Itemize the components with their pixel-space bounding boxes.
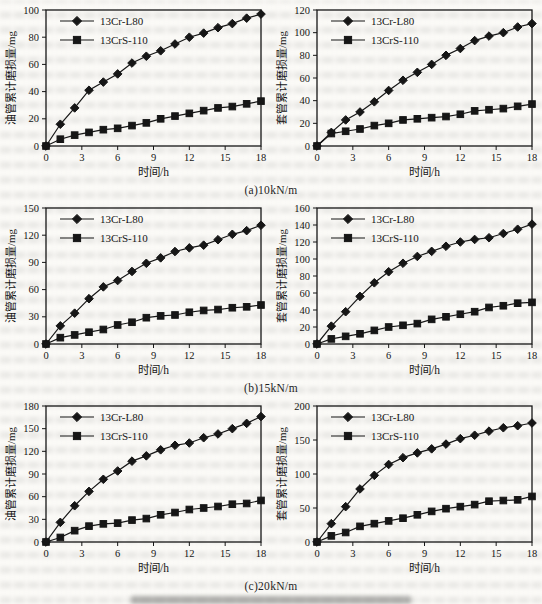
square-marker	[114, 322, 121, 329]
y-tick-label: 0	[305, 141, 310, 152]
diamond-marker	[171, 441, 180, 450]
y-tick-label: 60	[29, 284, 40, 295]
square-marker	[457, 311, 464, 318]
square-marker	[400, 117, 407, 124]
chart-row-b: 03060901201500369121518油管累计磨损量/mg时间/h13C…	[0, 198, 542, 382]
diamond-marker	[399, 453, 408, 462]
plot-border	[317, 10, 532, 146]
diamond-marker	[99, 78, 108, 87]
square-marker	[71, 527, 78, 534]
diamond-marker	[242, 226, 251, 235]
square-marker	[400, 322, 407, 329]
x-tick-label: 12	[455, 152, 466, 163]
square-marker	[443, 113, 450, 120]
legend-label: 13Cr-L80	[100, 213, 144, 225]
diamond-marker	[470, 431, 479, 440]
x-tick-label: 12	[184, 152, 195, 163]
chart-svg: 03060901201500369121518油管累计磨损量/mg时间/h13C…	[0, 198, 271, 382]
square-marker	[157, 116, 164, 123]
y-tick-label: 120	[294, 5, 310, 16]
square-marker	[143, 120, 150, 127]
square-marker	[57, 534, 64, 541]
diamond-marker	[113, 467, 122, 476]
x-tick-label: 18	[256, 350, 267, 361]
square-marker	[258, 98, 265, 105]
square-marker	[200, 307, 207, 314]
diamond-marker	[128, 267, 137, 276]
square-marker	[486, 498, 493, 505]
x-tick-label: 18	[527, 548, 538, 559]
diamond-marker	[156, 254, 165, 263]
diamond-marker	[442, 242, 451, 251]
diamond-marker	[427, 60, 436, 69]
x-tick-label: 0	[314, 350, 319, 361]
diamond-marker	[257, 221, 266, 230]
x-tick-label: 3	[79, 548, 84, 559]
square-marker	[229, 304, 236, 311]
diamond-marker	[513, 23, 522, 32]
square-marker	[342, 128, 349, 135]
x-tick-label: 15	[220, 152, 231, 163]
plot-border	[46, 208, 261, 344]
square-marker	[100, 126, 107, 133]
diamond-marker	[228, 424, 237, 433]
square-marker	[73, 432, 80, 439]
square-marker	[500, 497, 507, 504]
legend-label: 13CrS-110	[371, 430, 419, 442]
square-marker	[328, 130, 335, 137]
diamond-marker	[470, 235, 479, 244]
legend-label: 13CrS-110	[100, 430, 148, 442]
y-tick-label: 120	[294, 237, 310, 248]
x-tick-label: 3	[79, 152, 84, 163]
square-marker	[258, 497, 265, 504]
plot-border	[317, 208, 532, 344]
diamond-marker	[242, 419, 251, 428]
x-tick-label: 0	[314, 548, 319, 559]
square-marker	[100, 521, 107, 528]
x-axis-label: 时间/h	[138, 364, 169, 376]
diamond-marker	[456, 434, 465, 443]
y-axis-label: 油管累计磨损量/mg	[4, 228, 17, 323]
diamond-marker	[72, 16, 81, 25]
diamond-marker	[442, 440, 451, 449]
y-tick-label: 90	[29, 469, 40, 480]
square-marker	[314, 143, 321, 150]
diamond-marker	[156, 47, 165, 56]
x-tick-label: 6	[386, 548, 391, 559]
y-tick-label: 100	[294, 469, 310, 480]
legend-label: 13CrS-110	[100, 232, 148, 244]
square-marker	[385, 518, 392, 525]
square-marker	[385, 324, 392, 331]
y-tick-label: 80	[29, 32, 40, 43]
diamond-marker	[343, 412, 352, 421]
diamond-marker	[214, 430, 223, 439]
chart-row-c: 03060901201501800369121518油管累计磨损量/mg时间/h…	[0, 396, 542, 580]
chart-casing-wear-15kN: 0204060801001201401600369121518套管累计磨损量/m…	[271, 198, 542, 382]
diamond-marker	[214, 23, 223, 32]
diamond-marker	[228, 230, 237, 239]
x-tick-label: 6	[386, 152, 391, 163]
square-marker	[514, 300, 521, 307]
y-tick-label: 150	[23, 203, 39, 214]
square-marker	[200, 107, 207, 114]
x-tick-label: 3	[350, 152, 355, 163]
square-marker	[157, 512, 164, 519]
diamond-marker	[413, 68, 422, 77]
caption-a: (a)10kN/m	[0, 184, 542, 198]
diamond-marker	[142, 52, 151, 61]
chart-svg: 03060901201501800369121518油管累计磨损量/mg时间/h…	[0, 396, 271, 580]
y-axis-label: 套管累计磨损量/mg	[275, 228, 288, 323]
y-tick-label: 60	[29, 59, 40, 70]
caption-b: (b)15kN/m	[0, 382, 542, 396]
diamond-marker	[485, 427, 494, 436]
y-tick-label: 0	[34, 537, 39, 548]
x-tick-label: 15	[491, 152, 502, 163]
diamond-marker	[456, 44, 465, 53]
square-marker	[43, 341, 50, 348]
scanned-figure-page: 0204060801000369121518油管累计磨损量/mg时间/h13Cr…	[0, 0, 542, 604]
y-tick-label: 100	[294, 254, 310, 265]
square-marker	[428, 114, 435, 121]
y-tick-label: 180	[23, 401, 39, 412]
diamond-marker	[185, 439, 194, 448]
square-marker	[129, 122, 136, 129]
